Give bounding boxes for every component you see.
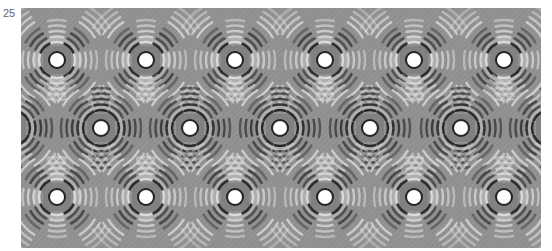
bright-center <box>318 53 332 67</box>
bright-center <box>497 53 511 67</box>
bright-center <box>318 190 332 204</box>
bright-center <box>139 190 153 204</box>
bright-center <box>94 121 108 135</box>
bright-center <box>228 190 242 204</box>
pattern-canvas <box>21 8 541 248</box>
bright-center <box>407 53 421 67</box>
bright-center <box>183 121 197 135</box>
panel-label: 25 <box>3 7 15 19</box>
bright-center <box>273 121 287 135</box>
bright-center <box>139 53 153 67</box>
bright-center <box>454 121 468 135</box>
bright-center <box>497 190 511 204</box>
bright-center <box>228 53 242 67</box>
bright-center <box>50 190 64 204</box>
bright-center <box>363 121 377 135</box>
bright-center <box>50 53 64 67</box>
interference-pattern-image <box>21 8 541 248</box>
bright-center <box>407 190 421 204</box>
